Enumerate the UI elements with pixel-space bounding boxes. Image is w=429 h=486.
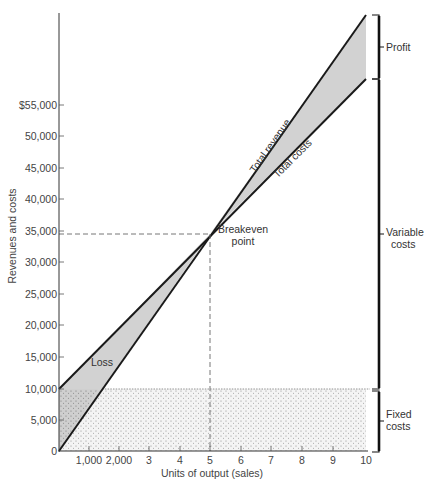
- svg-text:5,000: 5,000: [31, 414, 57, 426]
- svg-text:3: 3: [146, 454, 152, 466]
- loss-label: Loss: [91, 356, 113, 368]
- svg-text:25,000: 25,000: [25, 288, 57, 300]
- fixed-costs-region: [59, 389, 366, 451]
- svg-text:40,000: 40,000: [25, 193, 57, 205]
- svg-text:8: 8: [299, 454, 305, 466]
- variable-costs-label-2: costs: [391, 238, 416, 250]
- y-tick-labels: 0 5,000 10,000 15,000 20,000 25,000 30,0…: [19, 99, 57, 457]
- x-tick-labels: 1,000 2,000 3 4 5 6 7 8 9 10: [76, 454, 372, 466]
- fixed-costs-label-2: costs: [386, 420, 411, 432]
- y-axis-title: Revenues and costs: [6, 188, 18, 283]
- fixed-costs-brace: [372, 391, 384, 452]
- profit-label: Profit: [386, 41, 411, 53]
- svg-text:20,000: 20,000: [25, 319, 57, 331]
- variable-costs-brace: [372, 79, 384, 389]
- breakeven-label-1: Breakeven: [218, 223, 268, 235]
- svg-text:0: 0: [51, 445, 57, 457]
- svg-text:15,000: 15,000: [25, 351, 57, 363]
- variable-costs-label-1: Variable: [386, 226, 424, 238]
- svg-text:5: 5: [207, 454, 213, 466]
- total-costs-line: [59, 79, 366, 389]
- svg-text:9: 9: [330, 454, 336, 466]
- svg-text:2,000: 2,000: [106, 454, 132, 466]
- svg-text:7: 7: [268, 454, 274, 466]
- x-axis-title: Units of output (sales): [161, 467, 263, 479]
- breakeven-chart: 0 5,000 10,000 15,000 20,000 25,000 30,0…: [0, 0, 429, 486]
- svg-text:4: 4: [177, 454, 183, 466]
- svg-text:1,000: 1,000: [76, 454, 102, 466]
- svg-text:6: 6: [238, 454, 244, 466]
- fixed-costs-label-1: Fixed: [386, 408, 412, 420]
- profit-brace: [372, 15, 384, 79]
- svg-text:30,000: 30,000: [25, 256, 57, 268]
- svg-text:10,000: 10,000: [25, 383, 57, 395]
- svg-text:10: 10: [360, 454, 372, 466]
- svg-text:$55,000: $55,000: [19, 99, 57, 111]
- svg-text:35,000: 35,000: [25, 225, 57, 237]
- svg-text:50,000: 50,000: [25, 130, 57, 142]
- svg-text:45,000: 45,000: [25, 162, 57, 174]
- breakeven-label-2: point: [232, 235, 255, 247]
- y-ticks: [59, 105, 64, 420]
